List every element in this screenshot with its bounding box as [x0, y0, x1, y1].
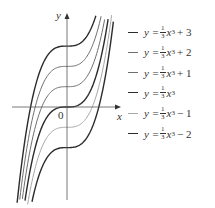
legend-label: y = 13x3+ 3: [144, 25, 191, 40]
origin-label: 0: [58, 109, 64, 121]
curves-group: [17, 15, 113, 204]
x-axis-label: x: [117, 110, 122, 122]
legend-item: y = 13x3− 1: [128, 105, 191, 121]
x-axis-arrow-icon: [115, 105, 121, 110]
curve-series-5: [32, 22, 113, 202]
legend-label: y = 13x3: [144, 85, 177, 100]
legend-swatch: [128, 113, 138, 114]
legend-label: y = 13x3− 1: [144, 106, 191, 121]
legend-label: y = 13x3+ 1: [144, 65, 191, 80]
legend-item: y = 13x3+ 3: [128, 24, 191, 40]
y-axis-label: y: [56, 9, 61, 21]
legend-swatch: [128, 133, 138, 134]
legend-item: y = 13x3+ 1: [128, 65, 191, 81]
legend-item: y = 13x3− 2: [128, 126, 191, 142]
legend-label: y = 13x3− 2: [144, 126, 191, 141]
legend-swatch: [128, 92, 138, 93]
legend-swatch: [128, 52, 138, 53]
plot-area: [0, 0, 125, 208]
legend-label: y = 13x3+ 2: [144, 45, 191, 60]
y-axis-arrow-icon: [65, 13, 70, 19]
legend-item: y = 13x3+ 2: [128, 44, 191, 60]
legend-swatch: [128, 72, 138, 73]
legend-item: y = 13x3: [128, 85, 177, 101]
legend-swatch: [128, 32, 138, 33]
